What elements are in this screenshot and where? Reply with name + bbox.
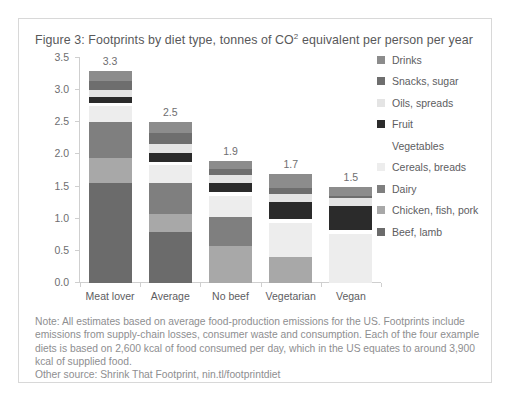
figure-title-prefix: Figure 3: Footprints by diet type, tonne… bbox=[35, 33, 294, 47]
bar-total-label: 3.3 bbox=[89, 55, 132, 67]
y-axis-tick-label: 3.5 bbox=[54, 51, 69, 63]
bar-segment bbox=[149, 144, 192, 153]
bar-segment bbox=[89, 106, 132, 122]
legend-item[interactable]: Beef, lamb bbox=[377, 221, 487, 243]
x-axis-category-label: No beef bbox=[200, 290, 260, 302]
x-axis-category-label: Vegan bbox=[321, 290, 381, 302]
chart-note: Note: All estimates based on average foo… bbox=[35, 315, 487, 369]
bar-segment bbox=[89, 71, 132, 81]
bar-stack bbox=[329, 187, 372, 283]
bar-segment bbox=[269, 223, 312, 258]
bar-segment bbox=[269, 202, 312, 219]
legend-swatch-icon bbox=[377, 56, 385, 64]
legend-swatch-icon bbox=[377, 185, 385, 193]
bar-segment bbox=[209, 217, 252, 246]
legend-item-label: Fruit bbox=[392, 118, 413, 130]
y-axis-tick-mark bbox=[75, 250, 80, 251]
y-axis-tick-mark bbox=[75, 89, 80, 90]
legend-item[interactable]: Oils, spreads bbox=[377, 92, 487, 114]
x-axis-category-label: Average bbox=[140, 290, 200, 302]
bar-segment bbox=[329, 198, 372, 206]
bar-total-label: 1.7 bbox=[269, 158, 312, 170]
bar-stack bbox=[269, 174, 312, 283]
bar-segment bbox=[149, 122, 192, 133]
figure-title-suffix: equivalent per person per year bbox=[298, 33, 473, 47]
bar-group[interactable] bbox=[89, 58, 132, 283]
x-axis-category-label: Meat lover bbox=[80, 290, 140, 302]
y-axis-tick-mark bbox=[75, 121, 80, 122]
legend-item[interactable]: Dairy bbox=[377, 178, 487, 200]
y-axis-tick-label: 0.5 bbox=[54, 244, 69, 256]
legend-item-label: Drinks bbox=[392, 54, 422, 66]
x-axis-tick-mark bbox=[261, 283, 262, 287]
figure-card: Figure 3: Footprints by diet type, tonne… bbox=[18, 18, 492, 383]
bar-stack bbox=[149, 122, 192, 283]
x-axis-tick-mark bbox=[140, 283, 141, 287]
x-axis-tick-mark bbox=[381, 283, 382, 287]
bar-segment bbox=[269, 174, 312, 188]
legend-item-label: Chicken, fish, pork bbox=[392, 204, 478, 216]
x-axis-tick-mark bbox=[200, 283, 201, 287]
legend-swatch-icon bbox=[377, 163, 385, 171]
y-axis-tick-mark bbox=[75, 57, 80, 58]
bar-total-label: 1.5 bbox=[329, 171, 372, 183]
bar-segment bbox=[209, 161, 252, 169]
y-axis-tick-label: 2.5 bbox=[54, 115, 69, 127]
bar-total-label: 1.9 bbox=[209, 145, 252, 157]
x-axis-tick-mark bbox=[80, 283, 81, 287]
bar-group[interactable] bbox=[209, 58, 252, 283]
bar-segment bbox=[89, 158, 132, 184]
legend-swatch-icon bbox=[377, 77, 385, 85]
legend-item[interactable]: Vegetables bbox=[377, 135, 487, 157]
legend-item-label: Beef, lamb bbox=[392, 226, 442, 238]
bar-group[interactable] bbox=[269, 58, 312, 283]
legend-swatch-icon bbox=[377, 120, 385, 128]
bar-segment bbox=[89, 81, 132, 91]
bar-stack bbox=[209, 161, 252, 283]
legend-swatch-icon bbox=[377, 99, 385, 107]
page-title: Figure 3: Footprints by diet type, tonne… bbox=[35, 32, 481, 47]
y-axis-tick-mark bbox=[75, 186, 80, 187]
y-axis-tick-label: 1.0 bbox=[54, 212, 69, 224]
legend-item[interactable]: Fruit bbox=[377, 114, 487, 136]
bar-segment bbox=[329, 206, 372, 230]
legend-swatch-icon bbox=[377, 142, 385, 150]
bar-segment bbox=[209, 175, 252, 183]
y-axis-tick-mark bbox=[75, 153, 80, 154]
bar-segment bbox=[149, 214, 192, 232]
bar-segment bbox=[89, 122, 132, 157]
bar-segment bbox=[329, 234, 372, 283]
legend-item[interactable]: Drinks bbox=[377, 49, 487, 71]
x-axis-category-label: Vegetarian bbox=[261, 290, 321, 302]
y-axis: 0.00.51.01.52.02.53.03.5 bbox=[35, 57, 75, 282]
legend-item-label: Snacks, sugar bbox=[392, 75, 459, 87]
legend-item[interactable]: Cereals, breads bbox=[377, 157, 487, 179]
bar-segment bbox=[149, 153, 192, 162]
bar-segment bbox=[149, 232, 192, 283]
bar-segment bbox=[149, 133, 192, 144]
chart-other-source: Other source: Shrink That Footprint, nin… bbox=[35, 369, 487, 380]
chart-legend: DrinksSnacks, sugarOils, spreadsFruitVeg… bbox=[377, 49, 487, 243]
y-axis-tick-label: 1.5 bbox=[54, 180, 69, 192]
bar-segment bbox=[269, 194, 312, 202]
legend-swatch-icon bbox=[377, 206, 385, 214]
bar-segment bbox=[209, 183, 252, 192]
bar-segment bbox=[89, 183, 132, 283]
bar-total-label: 2.5 bbox=[149, 106, 192, 118]
bar-segment bbox=[269, 257, 312, 283]
bar-segment bbox=[149, 183, 192, 214]
y-axis-tick-label: 0.0 bbox=[54, 276, 69, 288]
bar-group[interactable] bbox=[149, 58, 192, 283]
legend-item-label: Vegetables bbox=[392, 140, 444, 152]
y-axis-tick-mark bbox=[75, 218, 80, 219]
legend-item-label: Dairy bbox=[392, 183, 417, 195]
bar-stack bbox=[89, 71, 132, 283]
legend-swatch-icon bbox=[377, 228, 385, 236]
legend-item[interactable]: Chicken, fish, pork bbox=[377, 200, 487, 222]
bar-segment bbox=[209, 246, 252, 283]
bar-segment bbox=[329, 187, 372, 197]
legend-item-label: Cereals, breads bbox=[392, 161, 466, 173]
bar-segment bbox=[209, 196, 252, 218]
bar-segment bbox=[149, 165, 192, 182]
legend-item[interactable]: Snacks, sugar bbox=[377, 71, 487, 93]
